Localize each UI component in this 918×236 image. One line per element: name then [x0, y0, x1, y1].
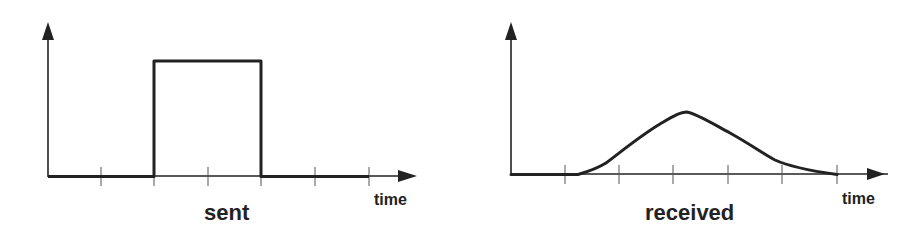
sent-pulse: [48, 61, 369, 177]
received-caption: received: [645, 200, 734, 226]
received-x-axis-arrow-icon: [867, 168, 885, 180]
signal-diagrams: [0, 0, 918, 236]
received-time-label: time: [842, 190, 875, 208]
sent-caption: sent: [204, 200, 249, 226]
received-diagram: [410, 22, 888, 184]
received-pulse: [511, 112, 837, 175]
received-y-axis-arrow-icon: [505, 22, 517, 40]
sent-diagram: [42, 22, 417, 186]
sent-time-label: time: [374, 191, 407, 209]
sent-y-axis-arrow-icon: [42, 22, 54, 40]
sent-x-axis-arrow-icon: [398, 170, 417, 182]
